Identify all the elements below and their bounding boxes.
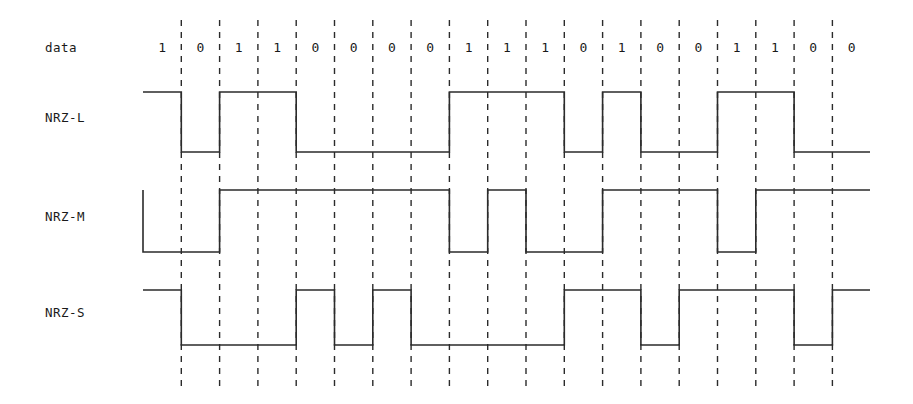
data-bit-label: 0 bbox=[809, 40, 817, 55]
data-bit-label: 1 bbox=[158, 40, 166, 55]
row-label-nrzm: NRZ-M bbox=[45, 209, 85, 224]
data-bit-label: 1 bbox=[733, 40, 741, 55]
data-bit-label: 1 bbox=[503, 40, 511, 55]
waveform-nrz-l bbox=[143, 92, 870, 152]
data-bit-label: 0 bbox=[580, 40, 588, 55]
data-bit-label: 0 bbox=[694, 40, 702, 55]
waveform-nrz-s bbox=[143, 290, 870, 345]
waveform-nrz-m bbox=[143, 190, 870, 252]
timing-diagram-svg: 1011000011101001100 dataNRZ-LNRZ-MNRZ-S bbox=[0, 0, 913, 404]
data-bit-label: 1 bbox=[465, 40, 473, 55]
data-bit-label: 0 bbox=[311, 40, 319, 55]
data-bit-label: 1 bbox=[771, 40, 779, 55]
data-bit-labels-group: 1011000011101001100 bbox=[158, 40, 855, 55]
data-bit-label: 0 bbox=[426, 40, 434, 55]
row-label-nrzs: NRZ-S bbox=[45, 305, 85, 320]
data-bit-label: 1 bbox=[273, 40, 281, 55]
row-label-data: data bbox=[45, 40, 77, 55]
waveforms-group bbox=[143, 92, 870, 345]
data-bit-label: 0 bbox=[197, 40, 205, 55]
timing-diagram-figure: 1011000011101001100 dataNRZ-LNRZ-MNRZ-S bbox=[0, 0, 913, 404]
row-label-nrzl: NRZ-L bbox=[45, 110, 85, 125]
data-bit-label: 1 bbox=[541, 40, 549, 55]
row-labels-group: dataNRZ-LNRZ-MNRZ-S bbox=[45, 40, 85, 320]
data-bit-label: 0 bbox=[350, 40, 358, 55]
grid-lines-group bbox=[181, 20, 832, 386]
data-bit-label: 1 bbox=[618, 40, 626, 55]
data-bit-label: 1 bbox=[235, 40, 243, 55]
data-bit-label: 0 bbox=[388, 40, 396, 55]
data-bit-label: 0 bbox=[848, 40, 856, 55]
data-bit-label: 0 bbox=[656, 40, 664, 55]
